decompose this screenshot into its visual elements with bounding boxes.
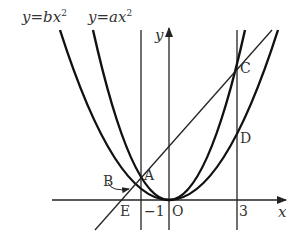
point-c-label: C (240, 60, 251, 76)
point-b-label: B (103, 173, 113, 189)
y-axis-label: y (154, 26, 164, 44)
tick-label-3: 3 (239, 203, 248, 219)
diagram-canvas: y=bx2 y=ax2 y x O −1 3 A B C D E (0, 0, 308, 247)
point-e-label: E (120, 203, 130, 219)
eq-label-b: y=bx2 (21, 8, 67, 26)
x-axis-label: x (278, 203, 287, 221)
origin-label: O (172, 203, 183, 219)
eq-label-a: y=ax2 (87, 8, 132, 26)
tick-label-neg1: −1 (144, 203, 165, 219)
point-a-label: A (143, 167, 155, 183)
parabola-diagram: y=bx2 y=ax2 y x O −1 3 A B C D E (0, 0, 308, 247)
point-d-label: D (240, 130, 251, 146)
